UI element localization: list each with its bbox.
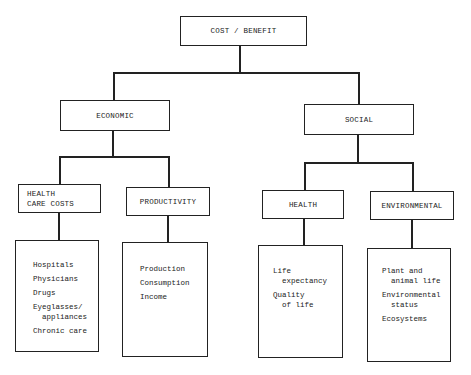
list-item: Environmental status [382,290,450,310]
node-label: ECONOMIC [96,112,134,120]
root-node-cost-benefit: COST / BENEFIT [180,16,307,46]
node-health: HEALTH [262,190,344,219]
list-item: Life expectancy [273,266,342,286]
node-label: SOCIAL [345,116,373,124]
connector [303,219,305,246]
node-environmental: ENVIRONMENTAL [370,191,454,220]
node-label: PRODUCTIVITY [140,198,196,206]
connector [168,156,170,187]
node-health-care-costs: HEALTH CARE COSTS [18,184,101,213]
list-item: Income [140,292,207,302]
leaf-health-items: Life expectancy Quality of life [258,245,343,358]
connector [59,156,61,185]
node-label: HEALTH [289,201,317,209]
root-label: COST / BENEFIT [211,27,277,35]
connector [304,162,413,164]
connector [113,72,115,101]
list-item: Chronic care [33,326,98,336]
list-item: Drugs [33,288,98,298]
node-productivity: PRODUCTIVITY [126,187,210,216]
list-item: Eyeglasses/ appliances [33,302,98,322]
list-item: Consumption [140,278,207,288]
leaf-health-care-costs-items: Hospitals Physicians Drugs Eyeglasses/ a… [15,240,99,352]
connector [113,72,359,74]
list-item: Physicians [33,274,98,284]
connector [59,156,169,158]
connector [412,162,414,192]
connector [58,213,60,241]
node-label-line: HEALTH [27,189,55,199]
connector [357,135,359,162]
list-item: Hospitals [33,260,98,270]
node-label-line: CARE COSTS [27,199,74,209]
list-item: Quality of life [273,290,342,310]
node-label: ENVIRONMENTAL [381,202,442,210]
connector [167,216,169,243]
list-item: Production [140,264,207,274]
list-item: Plant and animal life [382,266,450,286]
node-economic: ECONOMIC [60,100,170,131]
connector [112,131,114,157]
leaf-environmental-items: Plant and animal life Environmental stat… [367,248,451,362]
connector [239,46,241,73]
leaf-productivity-items: Production Consumption Income [122,242,208,357]
node-social: SOCIAL [304,104,414,135]
connector [304,162,306,191]
connector [358,72,360,105]
connector [411,220,413,249]
list-item: Ecosystems [382,314,450,324]
